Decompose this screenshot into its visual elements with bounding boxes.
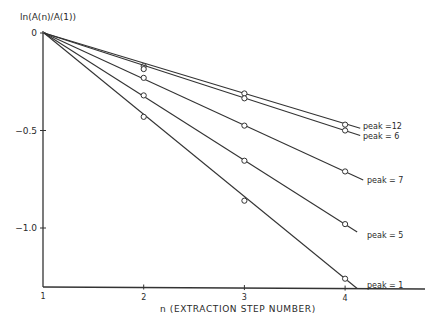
fit-line xyxy=(44,33,357,289)
data-point-marker xyxy=(141,66,146,71)
data-point-marker xyxy=(242,158,247,163)
series-group: peak =12peak = 6peak = 7peak = 5peak = 1 xyxy=(44,33,403,290)
data-point-marker xyxy=(343,122,348,127)
series-label: peak = 1 xyxy=(367,281,403,290)
x-tick-label: 3 xyxy=(242,293,247,302)
y-tick-label: −1.0 xyxy=(15,223,37,233)
series-label: peak = 5 xyxy=(367,231,403,240)
data-point-marker xyxy=(242,123,247,128)
axes xyxy=(40,31,425,291)
fit-line xyxy=(44,33,360,128)
data-point-marker xyxy=(343,276,348,281)
fit-line xyxy=(44,33,360,136)
series-peak7: peak = 7 xyxy=(44,33,403,185)
data-point-marker xyxy=(141,75,146,80)
line-chart: 0−0.5−1.01234 peak =12peak = 6peak = 7pe… xyxy=(0,0,437,330)
series-peak1: peak = 1 xyxy=(44,33,403,290)
data-point-marker xyxy=(141,93,146,98)
series-label: peak =12 xyxy=(363,122,402,131)
data-point-marker xyxy=(343,222,348,227)
data-point-marker xyxy=(343,169,348,174)
data-point-marker xyxy=(242,96,247,101)
data-point-marker xyxy=(141,114,146,119)
series-label: peak = 6 xyxy=(363,132,399,141)
y-axis-label: ln(A(n)/A(1)) xyxy=(20,12,76,22)
x-tick-label: 1 xyxy=(40,292,45,301)
fit-line xyxy=(44,33,363,180)
series-label: peak = 7 xyxy=(367,176,403,185)
x-axis-label: n (EXTRACTION STEP NUMBER) xyxy=(160,304,316,314)
y-tick-label: −0.5 xyxy=(15,126,37,136)
y-tick-label: 0 xyxy=(31,28,37,38)
series-peak12: peak =12 xyxy=(44,33,402,131)
fit-line xyxy=(44,33,357,232)
x-tick-label: 4 xyxy=(343,294,348,303)
series-peak5: peak = 5 xyxy=(44,33,403,240)
x-tick-label: 2 xyxy=(141,293,146,302)
data-point-marker xyxy=(343,128,348,133)
data-point-marker xyxy=(242,198,247,203)
tick-labels: 0−0.5−1.01234 xyxy=(15,28,348,303)
